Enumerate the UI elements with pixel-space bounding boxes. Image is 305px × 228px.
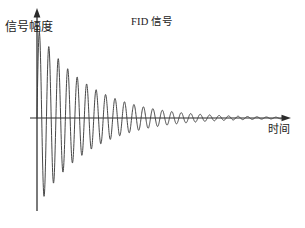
arrow-up-icon [34,8,41,18]
fid-signal-figure: FID 信号 信号幅度 时间 [0,0,305,228]
fid-plot-canvas [0,0,305,228]
chart-title: FID 信号 [131,16,172,27]
x-axis-label: 时间 [268,124,290,136]
fid-waveform-curve [37,32,283,196]
y-axis-label: 信号幅度 [5,19,23,37]
